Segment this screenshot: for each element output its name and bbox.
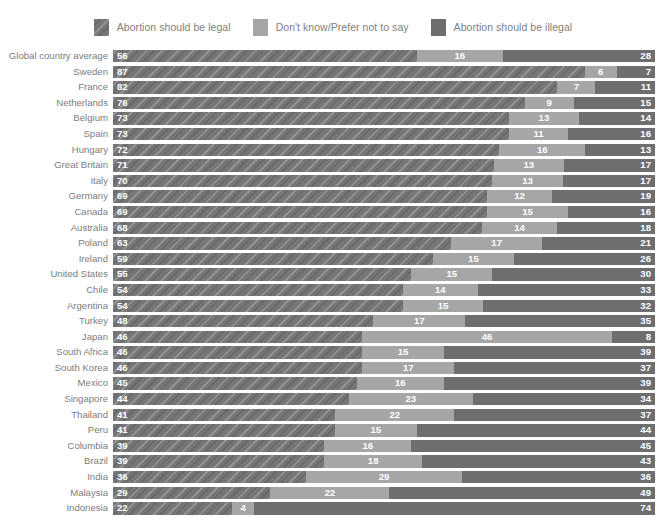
bar-segment-dk: 16: [357, 377, 444, 389]
stacked-bar: 681418: [113, 222, 655, 234]
bar-segment-dk: 46: [362, 331, 611, 343]
bar-segment-legal: 56: [113, 50, 417, 62]
segment-value-label: 9: [525, 97, 574, 109]
stacked-bar: 411544: [113, 424, 655, 436]
stacked-bar: 8767: [113, 66, 655, 78]
bar-segment-dk: 16: [499, 144, 585, 156]
segment-value-label: 44: [640, 424, 651, 436]
bar-segment-legal: 71: [113, 159, 494, 171]
legend-item-0[interactable]: Abortion should be legal: [94, 19, 231, 36]
chart-row: Brazil391843: [0, 455, 666, 471]
row-label: Singapore: [0, 393, 108, 405]
bar-segment-illegal: 16: [568, 128, 655, 140]
bar-segment-legal: 59: [113, 253, 433, 265]
stacked-bar: 731314: [113, 112, 655, 124]
chart-row: Italy701317: [0, 175, 666, 191]
bar-segment-legal: 63: [113, 237, 451, 249]
bar-segment-dk: 15: [403, 300, 483, 312]
segment-value-label: 41: [117, 424, 128, 436]
bar-segment-dk: 18: [324, 455, 422, 467]
segment-value-label: 12: [487, 190, 552, 202]
segment-value-label: 73: [117, 112, 128, 124]
stacked-bar: 561628: [113, 50, 655, 62]
bar-segment-dk: 13: [494, 159, 564, 171]
row-label: Australia: [0, 222, 108, 234]
bar-segment-dk: 9: [525, 97, 574, 109]
bar-segment-legal: 41: [113, 409, 335, 421]
bar-segment-legal: 73: [113, 128, 509, 140]
segment-value-label: 11: [509, 128, 569, 140]
segment-value-label: 45: [640, 440, 651, 452]
segment-value-label: 33: [640, 284, 651, 296]
segment-value-label: 68: [117, 222, 128, 234]
segment-value-label: 15: [640, 97, 651, 109]
segment-value-label: 4: [232, 502, 254, 514]
bar-segment-legal: 69: [113, 190, 487, 202]
chart-row: Indonesia22474: [0, 502, 666, 518]
chart-row: Malaysia292249: [0, 487, 666, 503]
row-label: Japan: [0, 331, 108, 343]
bar-segment-illegal: 30: [492, 268, 655, 280]
bar-segment-dk: 7: [557, 81, 595, 93]
bar-segment-legal: 82: [113, 81, 557, 93]
stacked-bar: 22474: [113, 502, 655, 514]
legend-item-2[interactable]: Abortion should be illegal: [431, 19, 573, 36]
chart-row: Australia681418: [0, 222, 666, 238]
segment-value-label: 54: [117, 284, 128, 296]
row-label: Argentina: [0, 300, 108, 312]
segment-value-label: 69: [117, 206, 128, 218]
bar-segment-illegal: 15: [574, 97, 655, 109]
stacked-bar: 691219: [113, 190, 655, 202]
bar-segment-dk: 12: [487, 190, 552, 202]
legend-item-1[interactable]: Don't know/Prefer not to say: [253, 19, 409, 36]
bar-segment-dk: 13: [509, 112, 579, 124]
stacked-bar: 541433: [113, 284, 655, 296]
stacked-bar: 481735: [113, 315, 655, 327]
stacked-bar-chart: Abortion should be legalDon't know/Prefe…: [0, 0, 666, 520]
row-label: Indonesia: [0, 502, 108, 514]
bar-segment-dk: 4: [232, 502, 254, 514]
chart-plot-area: Global country average561628Sweden8767Fr…: [0, 50, 666, 518]
chart-row: Germany691219: [0, 190, 666, 206]
segment-value-label: 87: [117, 66, 128, 78]
bar-segment-illegal: 37: [454, 362, 655, 374]
bar-segment-illegal: 16: [568, 206, 655, 218]
legend-label: Abortion should be legal: [117, 21, 231, 33]
segment-value-label: 46: [117, 346, 128, 358]
row-label: Spain: [0, 128, 108, 140]
stacked-bar: 82711: [113, 81, 655, 93]
bar-segment-illegal: 11: [595, 81, 655, 93]
stacked-bar: 591526: [113, 253, 655, 265]
row-label: Peru: [0, 424, 108, 436]
segment-value-label: 16: [417, 50, 504, 62]
segment-value-label: 22: [117, 502, 128, 514]
bar-segment-dk: 15: [362, 346, 443, 358]
segment-value-label: 14: [482, 222, 558, 234]
row-label: Turkey: [0, 315, 108, 327]
segment-value-label: 19: [640, 190, 651, 202]
legend-label: Don't know/Prefer not to say: [276, 21, 409, 33]
bar-segment-dk: 29: [306, 471, 462, 483]
bar-segment-illegal: 28: [503, 50, 655, 62]
row-label: South Korea: [0, 362, 108, 374]
bar-segment-illegal: 37: [454, 409, 655, 421]
segment-value-label: 16: [324, 440, 411, 452]
segment-value-label: 39: [117, 455, 128, 467]
bar-segment-legal: 68: [113, 222, 482, 234]
bar-segment-legal: 70: [113, 175, 492, 187]
bar-segment-dk: 11: [509, 128, 569, 140]
bar-segment-legal: 44: [113, 393, 349, 405]
segment-value-label: 15: [433, 253, 514, 265]
legend-label: Abortion should be illegal: [454, 21, 573, 33]
segment-value-label: 15: [335, 424, 416, 436]
segment-value-label: 41: [117, 409, 128, 421]
bar-segment-illegal: 49: [389, 487, 655, 499]
bar-segment-illegal: 19: [552, 190, 655, 202]
chart-row: Global country average561628: [0, 50, 666, 66]
row-label: Malaysia: [0, 487, 108, 499]
segment-value-label: 26: [640, 253, 651, 265]
segment-value-label: 32: [640, 300, 651, 312]
bar-segment-illegal: 43: [422, 455, 655, 467]
row-label: France: [0, 81, 108, 93]
bar-segment-illegal: 17: [563, 175, 655, 187]
